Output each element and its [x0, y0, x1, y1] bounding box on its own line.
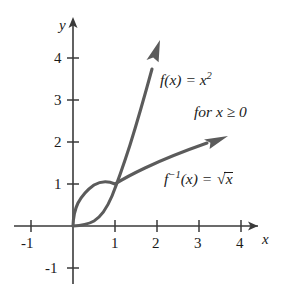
parabola-label-exponent: 2 — [207, 70, 212, 81]
x-axis-label: x — [262, 232, 269, 247]
sqrt-function-label: f−1(x) = √x — [164, 170, 233, 187]
sqrt-label-exponent: −1 — [168, 169, 180, 180]
function-graph-figure: y x -1 1 2 3 4 1 2 3 4 -1 f(x) = x2 for … — [0, 0, 286, 296]
y-tick-label-3: 3 — [54, 93, 62, 108]
x-tick-label-neg1: -1 — [21, 236, 34, 251]
y-tick-label-2: 2 — [54, 135, 62, 150]
y-axis-label: y — [59, 18, 66, 33]
parabola-domain-label: for x ≥ 0 — [194, 104, 247, 120]
x-tick-label-3: 3 — [194, 236, 202, 251]
parabola-curve — [73, 69, 152, 226]
x-tick-label-2: 2 — [152, 236, 160, 251]
x-tick-label-1: 1 — [111, 236, 119, 251]
x-tick-label-4: 4 — [236, 236, 244, 251]
y-tick-label-1: 1 — [54, 177, 62, 192]
y-tick-label-4: 4 — [54, 51, 62, 66]
parabola-label-text: f(x) = x — [160, 71, 207, 88]
sqrt-label-middle: (x) = — [181, 170, 216, 187]
radical-group: √x — [216, 171, 232, 187]
parabola-arrowhead — [147, 40, 161, 62]
radical-overbar — [224, 172, 232, 173]
graph-canvas — [0, 0, 286, 296]
parabola-function-label: f(x) = x2 — [160, 71, 212, 88]
y-tick-label-neg1: -1 — [45, 261, 58, 276]
